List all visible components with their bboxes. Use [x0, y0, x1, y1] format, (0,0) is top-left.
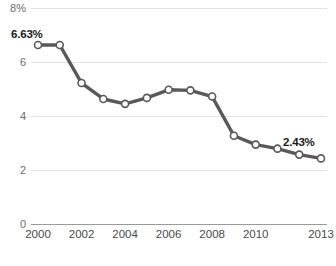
series-line-group — [31, 8, 327, 224]
x-tick-label: 2010 — [243, 228, 269, 240]
y-tick-label: 2 — [20, 165, 26, 176]
data-point — [187, 87, 194, 94]
data-point — [143, 94, 150, 101]
x-tick-label: 2000 — [25, 228, 51, 240]
data-point — [252, 141, 259, 148]
plot-area — [31, 8, 327, 224]
data-point — [209, 93, 216, 100]
x-tick-label: 2006 — [156, 228, 182, 240]
data-point — [318, 155, 325, 162]
annotation-start: 6.63% — [11, 28, 43, 40]
data-point — [122, 100, 129, 107]
x-axis-line — [31, 224, 327, 225]
data-point — [230, 132, 237, 139]
x-tick-label: 2013 — [308, 228, 334, 240]
annotation-end: 2.43% — [283, 136, 315, 148]
data-point — [296, 151, 303, 158]
series-markers — [35, 41, 325, 161]
y-tick-label: 8% — [10, 3, 26, 14]
data-point — [165, 86, 172, 93]
data-point — [78, 80, 85, 87]
x-axis-labels: 2000 2002 2004 2006 2008 2010 2013 — [0, 228, 336, 248]
x-tick-label: 2004 — [112, 228, 138, 240]
y-tick-label: 4 — [20, 111, 26, 122]
data-point — [274, 145, 281, 152]
line-chart: 8% 6 4 2 0 6.63% 2.43% 2000 2002 2004 20… — [0, 0, 336, 266]
y-tick-label: 6 — [20, 57, 26, 68]
x-tick-label: 2008 — [199, 228, 225, 240]
series-line — [38, 45, 321, 158]
data-point — [35, 41, 42, 48]
data-point — [100, 95, 107, 102]
x-tick-label: 2002 — [69, 228, 95, 240]
data-point — [56, 41, 63, 48]
